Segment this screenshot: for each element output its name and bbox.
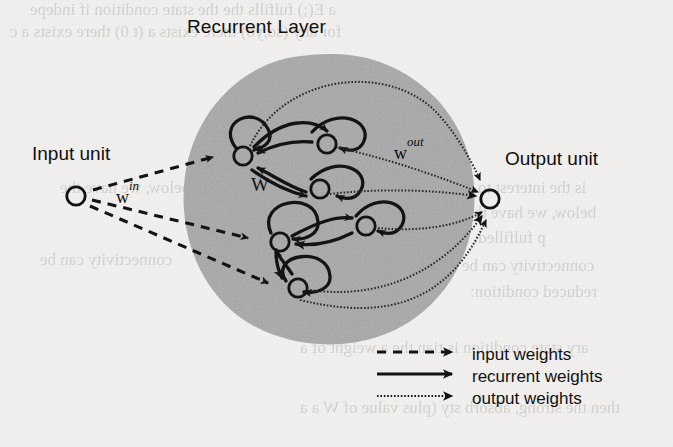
w-out-sup: out (407, 134, 424, 149)
w-in-label: win (116, 184, 139, 208)
legend-samples (377, 352, 452, 396)
w-in-base: w (116, 187, 129, 207)
page-title: Recurrent Layer (0, 16, 673, 38)
title-text: Recurrent Layer (187, 16, 326, 38)
legend-label-output-weights: output weights (472, 389, 582, 409)
output-unit-circle (481, 190, 499, 208)
legend-label-recurrent-weights: recurrent weights (472, 367, 602, 387)
scanned-page: a E(;) fulfills the the state condition … (0, 0, 673, 447)
w-out-label: wout (394, 140, 424, 164)
output-unit-label: Output unit (505, 148, 598, 170)
w-recurrent-label: W (251, 174, 269, 196)
input-unit-circle (67, 187, 85, 205)
w-in-sup: in (129, 178, 139, 193)
input-unit-label: Input unit (32, 143, 110, 165)
legend-label-input-weights: input weights (472, 345, 571, 365)
recurrent-layer-blob (184, 54, 475, 344)
w-out-base: w (394, 143, 407, 163)
